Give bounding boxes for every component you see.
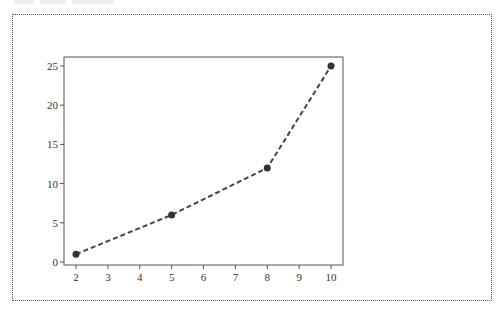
x-tick-label: 3 xyxy=(105,271,111,283)
data-point-marker xyxy=(264,164,271,171)
x-axis: 2345678910 xyxy=(73,265,337,283)
x-tick-label: 6 xyxy=(201,271,207,283)
y-tick-label: 25 xyxy=(47,60,59,72)
y-tick-label: 10 xyxy=(47,178,59,190)
line-chart: 0510152025 2345678910 xyxy=(0,0,501,313)
y-axis: 0510152025 xyxy=(47,60,64,268)
x-tick-label: 2 xyxy=(73,271,79,283)
plot-area xyxy=(64,57,343,265)
y-tick-label: 0 xyxy=(53,256,59,268)
data-point-marker xyxy=(168,211,175,218)
series-line xyxy=(76,66,331,254)
x-tick-label: 10 xyxy=(326,271,338,283)
x-tick-label: 5 xyxy=(169,271,175,283)
x-tick-label: 7 xyxy=(233,271,239,283)
data-point-marker xyxy=(73,251,80,258)
y-tick-label: 15 xyxy=(47,138,59,150)
x-tick-label: 8 xyxy=(265,271,271,283)
y-tick-label: 20 xyxy=(47,99,59,111)
data-point-marker xyxy=(328,63,335,70)
x-tick-label: 4 xyxy=(137,271,143,283)
x-tick-label: 9 xyxy=(296,271,302,283)
plot-border xyxy=(64,57,343,265)
data-series xyxy=(73,63,335,258)
y-tick-label: 5 xyxy=(53,217,59,229)
